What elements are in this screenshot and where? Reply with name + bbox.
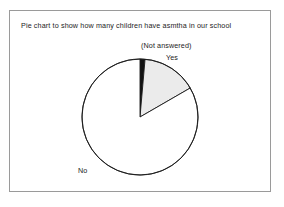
pie-label-no: No [78,167,87,176]
pie-chart-figure: Pie chart to show how many children have… [0,0,284,207]
pie-label-not-answered: (Not answered) [141,42,192,51]
pie-label-yes: Yes [166,54,178,63]
pie-slice-group [82,59,198,175]
pie-chart-canvas [0,0,284,207]
